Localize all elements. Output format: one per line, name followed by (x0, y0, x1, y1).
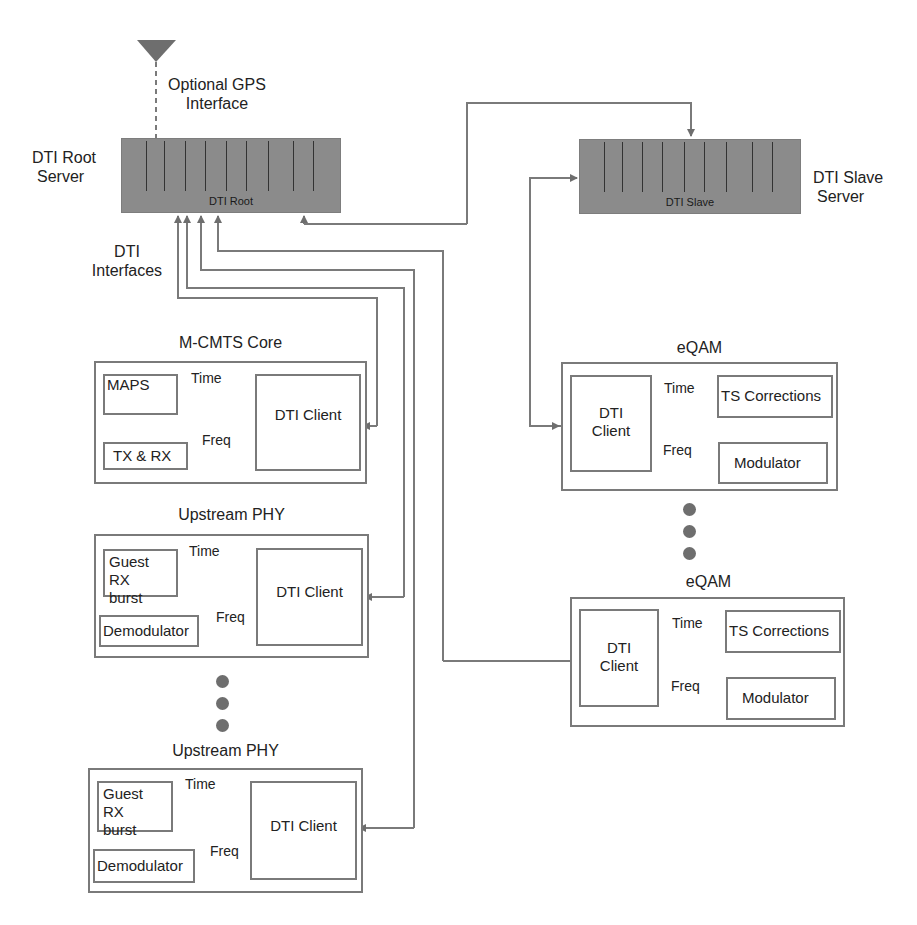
phy2-guest-line2: burst (103, 821, 167, 839)
mcmts-dti-client: DTI Client (255, 374, 361, 471)
eqam-1-title: eQAM (561, 338, 838, 357)
phy1-time-label: Time (189, 542, 220, 561)
root-server-label: DTI Root Server (32, 148, 96, 186)
ellipsis-dot (683, 547, 696, 560)
eqam1-modulator: Modulator (718, 442, 828, 484)
root-server-inner-label: DTI Root (122, 195, 340, 207)
eqam2-modulator: Modulator (726, 677, 836, 720)
interfaces-line2: Interfaces (82, 261, 172, 280)
phy1-guest-line1: Guest RX (109, 553, 172, 589)
eqam-2-title: eQAM (570, 572, 847, 591)
eqam1-ts-corrections: TS Corrections (717, 375, 833, 418)
phy2-dti-client: DTI Client (250, 781, 357, 880)
phy1-dti-client: DTI Client (256, 548, 363, 646)
gps-label-line2: Interface (162, 94, 272, 113)
phy2-guest-rx-block: Guest RX burst (97, 781, 173, 832)
mcmts-core-title: M-CMTS Core (94, 333, 367, 352)
dti-interfaces-label: DTI Interfaces (82, 242, 172, 280)
dti-root-server: DTI Root (121, 138, 341, 213)
mcmts-freq-label: Freq (202, 431, 231, 450)
upstream-phy-1-title: Upstream PHY (94, 505, 369, 524)
eqam1-time-label: Time (664, 379, 695, 398)
slave-server-label: DTI Slave Server (813, 168, 883, 206)
gps-antenna-icon (137, 40, 176, 62)
upstream-phy-2-title: Upstream PHY (88, 741, 363, 760)
phy1-guest-line2: burst (109, 589, 172, 607)
eqam2-client-line2: Client (585, 657, 653, 675)
ellipsis-dot (216, 675, 229, 688)
tx-rx-block: TX & RX (103, 442, 188, 470)
gps-label: Optional GPS Interface (162, 75, 272, 113)
eqam1-client-line1: DTI (576, 404, 646, 422)
slave-server-label-line1: DTI Slave (813, 168, 883, 187)
eqam1-client-line2: Client (576, 422, 646, 440)
phy1-guest-rx-block: Guest RX burst (103, 549, 178, 597)
phy2-time-label: Time (185, 775, 216, 794)
eqam2-dti-client: DTI Client (579, 609, 659, 707)
dti-slave-server: DTI Slave (579, 139, 801, 214)
slave-server-label-line2: Server (813, 187, 883, 206)
eqam2-client-line1: DTI (585, 639, 653, 657)
interfaces-line1: DTI (82, 242, 172, 261)
slave-server-inner-label: DTI Slave (580, 196, 800, 208)
gps-label-line1: Optional GPS (162, 75, 272, 94)
eqam2-freq-label: Freq (671, 677, 700, 696)
eqam2-time-label: Time (672, 614, 703, 633)
root-server-label-line2: Server (32, 167, 96, 186)
eqam2-ts-corrections: TS Corrections (725, 610, 841, 653)
phy2-guest-line1: Guest RX (103, 785, 167, 821)
root-server-label-line1: DTI Root (32, 148, 96, 167)
ellipsis-dot (216, 697, 229, 710)
phy1-freq-label: Freq (216, 608, 245, 627)
mcmts-time-label: Time (191, 369, 222, 388)
maps-block: MAPS (103, 374, 178, 415)
phy1-demodulator-block: Demodulator (99, 615, 199, 647)
phy2-demodulator-block: Demodulator (93, 849, 195, 883)
eqam1-freq-label: Freq (663, 441, 692, 460)
eqam1-dti-client: DTI Client (570, 375, 652, 472)
ellipsis-dot (683, 525, 696, 538)
ellipsis-dot (216, 719, 229, 732)
phy2-freq-label: Freq (210, 842, 239, 861)
ellipsis-dot (683, 503, 696, 516)
